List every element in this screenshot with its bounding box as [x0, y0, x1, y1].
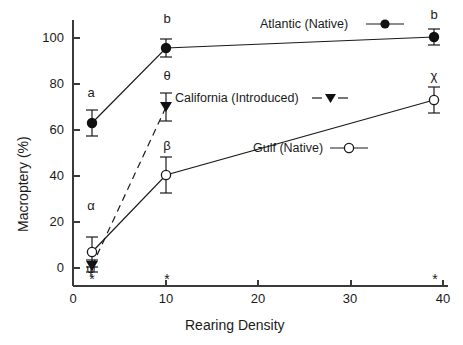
data-point-california-10 [160, 102, 172, 112]
legend-key-atlantic[interactable] [366, 19, 404, 28]
legend-marker-filled-triangle-down-icon [325, 94, 336, 103]
legend-marker-filled-circle-icon [380, 19, 389, 28]
data-point-gulf-10 [161, 170, 170, 179]
legend-key-california[interactable] [312, 94, 348, 103]
figure-container: Macroptery (%) 100 80 60 40 20 0 0 10 20… [0, 0, 463, 345]
error-bars-atlantic [86, 29, 440, 136]
data-point-atlantic-10 [161, 43, 171, 53]
legend-marker-open-circle-icon [344, 143, 353, 152]
data-point-gulf-39 [429, 95, 438, 104]
data-point-atlantic-39 [429, 32, 439, 42]
legend-key-gulf[interactable] [330, 143, 368, 152]
data-point-atlantic-2 [87, 118, 97, 128]
plot-canvas [0, 0, 463, 345]
data-points-gulf[interactable] [87, 95, 438, 256]
data-point-gulf-2 [87, 247, 96, 256]
series-line-atlantic [92, 37, 434, 123]
error-bars-gulf [86, 87, 440, 267]
series-line-gulf [92, 100, 434, 252]
